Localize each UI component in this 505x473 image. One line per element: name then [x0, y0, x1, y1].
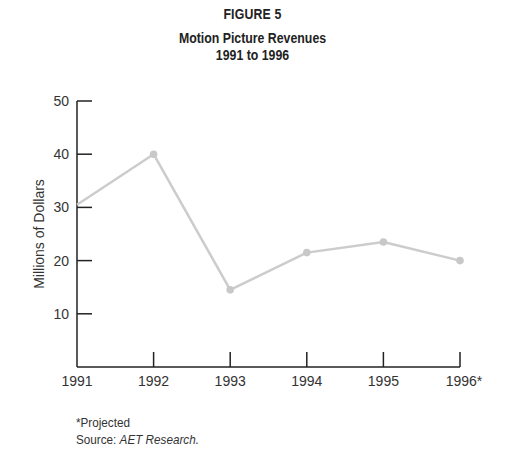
projected-note: *Projected: [76, 414, 199, 431]
y-tick-label: 30: [53, 199, 69, 215]
x-tick-label: 1996*: [446, 373, 483, 389]
x-tick-label: 1991: [61, 373, 92, 389]
source-prefix: Source:: [76, 432, 120, 447]
data-point-marker: [380, 238, 388, 246]
y-tick-label: 20: [53, 253, 69, 269]
data-point-marker: [226, 286, 234, 294]
data-point-marker: [150, 150, 158, 158]
series-line: [77, 154, 460, 290]
x-tick-label: 1994: [291, 373, 322, 389]
data-point-marker: [456, 257, 464, 265]
y-axis: 1020304050: [53, 93, 92, 367]
y-tick-label: 50: [53, 93, 69, 109]
y-tick-label: 40: [53, 146, 69, 162]
data-series: [77, 150, 464, 293]
source-note: Source: AET Research.: [76, 431, 199, 448]
x-axis: 199119921993199419951996*: [61, 352, 482, 389]
y-tick-label: 10: [53, 306, 69, 322]
x-tick-label: 1995: [368, 373, 399, 389]
x-tick-label: 1993: [215, 373, 246, 389]
line-chart: 1020304050 199119921993199419951996* Mil…: [0, 0, 505, 473]
chart-footer: *Projected Source: AET Research.: [76, 414, 199, 448]
data-point-marker: [303, 249, 311, 257]
x-tick-label: 1992: [138, 373, 169, 389]
source-name: AET Research.: [120, 432, 199, 447]
y-axis-label: Millions of Dollars: [31, 179, 47, 289]
